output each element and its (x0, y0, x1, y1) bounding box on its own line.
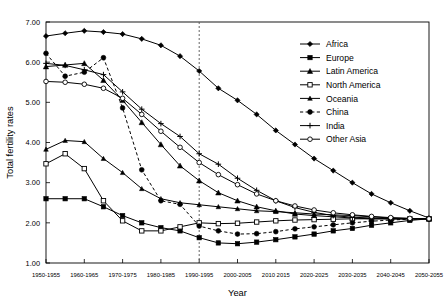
marker-open-circle (427, 217, 432, 222)
marker-filled-diamond (407, 208, 412, 213)
marker-filled-circle (197, 224, 202, 229)
fertility-rates-line-chart: 1.002.003.004.005.006.007.001950-1955196… (0, 0, 444, 305)
marker-open-circle (274, 198, 279, 203)
marker-open-circle (120, 96, 125, 101)
marker-open-square (312, 217, 316, 221)
marker-open-circle (159, 129, 164, 134)
marker-filled-diamond (331, 168, 336, 173)
marker-open-circle (293, 204, 298, 209)
marker-filled-square (82, 197, 86, 201)
marker-open-square (120, 219, 124, 223)
marker-open-square (82, 166, 86, 170)
marker-filled-square (312, 232, 316, 236)
marker-filled-circle (312, 224, 317, 229)
marker-filled-square (274, 238, 278, 242)
marker-filled-diamond (120, 31, 125, 36)
x-axis-tick-label: 2040-2045 (377, 272, 406, 278)
marker-open-square (254, 220, 258, 224)
marker-filled-circle (216, 228, 221, 233)
legend-item-china[interactable]: China (300, 107, 349, 117)
y-axis-tick-label: 7.00 (26, 18, 40, 27)
x-axis-tick-label: 2010 2015 (262, 272, 291, 278)
legend-item-label: Latin America (326, 66, 378, 76)
marker-filled-circle (308, 110, 313, 115)
y-axis-tick-label: 1.00 (26, 259, 40, 268)
marker-open-circle (82, 82, 87, 87)
marker-filled-square (120, 213, 124, 217)
legend-item-label: China (326, 107, 349, 117)
legend-item-europe[interactable]: Europe (300, 53, 354, 63)
legend-item-oceania[interactable]: Oceania (300, 94, 358, 104)
marker-open-square (216, 221, 220, 225)
y-axis-tick-label: 2.00 (26, 219, 40, 228)
marker-open-circle (312, 208, 317, 213)
y-axis-title: Total fertility rates (5, 106, 15, 179)
marker-filled-square (254, 240, 258, 244)
marker-open-square (293, 218, 297, 222)
marker-open-square (140, 229, 144, 233)
legend-item-africa[interactable]: Africa (300, 39, 348, 49)
marker-filled-circle (331, 222, 336, 227)
legend-item-label: Africa (326, 39, 348, 49)
marker-filled-square (101, 205, 105, 209)
marker-open-circle (178, 145, 183, 150)
marker-filled-circle (44, 51, 49, 56)
marker-filled-square (235, 242, 239, 246)
marker-filled-diamond (158, 43, 163, 48)
marker-open-circle (308, 137, 313, 142)
marker-filled-triangle (235, 198, 240, 203)
x-axis-tick-label: 1980-1985 (147, 272, 176, 278)
marker-open-square (159, 229, 163, 233)
marker-filled-square (216, 241, 220, 245)
legend-item-north-america[interactable]: North America (300, 80, 381, 90)
legend-item-label: Oceania (326, 94, 358, 104)
marker-open-square (63, 152, 67, 156)
marker-filled-square (197, 235, 201, 239)
x-axis-tick-label: 1970-1975 (109, 272, 138, 278)
legend-item-latin-america[interactable]: Latin America (300, 66, 378, 76)
legend-item-label: Other Asia (326, 134, 366, 144)
legend-item-india[interactable]: India (300, 121, 345, 131)
x-axis-tick-label: 2030-2035 (338, 272, 367, 278)
x-axis-tick-label: 2000-2005 (223, 272, 252, 278)
marker-filled-triangle (44, 147, 49, 151)
marker-open-circle (216, 172, 221, 177)
marker-plus (43, 61, 49, 67)
marker-open-circle (350, 213, 355, 218)
legend-item-label: North America (326, 80, 381, 90)
marker-filled-circle (120, 106, 125, 111)
legend-item-other-asia[interactable]: Other Asia (300, 134, 366, 144)
x-axis-tick-label: 1990-1995 (185, 272, 214, 278)
marker-filled-diamond (350, 180, 355, 185)
marker-filled-diamond (388, 200, 393, 205)
marker-filled-triangle (216, 190, 221, 195)
marker-filled-circle (254, 231, 259, 236)
marker-open-square (44, 162, 48, 166)
y-axis-tick-label: 6.00 (26, 58, 40, 67)
marker-open-circle (254, 192, 259, 197)
marker-open-circle (101, 86, 106, 91)
marker-filled-diamond (82, 28, 87, 33)
marker-filled-square (63, 197, 67, 201)
x-axis-tick-label: 2020-2025 (300, 272, 329, 278)
x-axis-tick-label: 2050-2055 (415, 272, 444, 278)
marker-open-square (274, 219, 278, 223)
legend-item-label: India (326, 121, 345, 131)
chart-container: 1.002.003.004.005.006.007.001950-1955196… (0, 0, 444, 305)
x-axis-title: Year (228, 288, 247, 298)
x-axis-tick-label: 1960-1965 (70, 272, 99, 278)
marker-filled-square (44, 197, 48, 201)
marker-filled-diamond (307, 41, 312, 46)
marker-filled-circle (235, 232, 240, 237)
marker-filled-circle (350, 220, 355, 225)
marker-filled-square (140, 221, 144, 225)
marker-open-circle (388, 215, 393, 220)
marker-filled-circle (63, 74, 68, 79)
y-axis-tick-label: 3.00 (26, 178, 40, 187)
marker-filled-square (331, 229, 335, 233)
marker-open-circle (44, 79, 49, 84)
marker-open-circle (369, 214, 374, 219)
marker-open-square (235, 221, 239, 225)
y-axis-tick-label: 5.00 (26, 98, 40, 107)
y-axis-tick-label: 4.00 (26, 138, 40, 147)
